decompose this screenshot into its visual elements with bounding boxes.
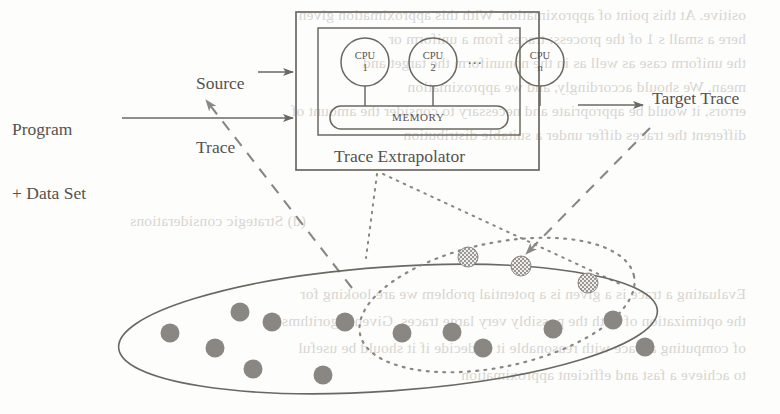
- trace-extrapolator-label: Trace Extrapolator: [334, 146, 465, 167]
- cpu-n-label: CPU n: [520, 50, 560, 74]
- cpu-1-index: 1: [345, 62, 385, 74]
- trace-extrapolator-diagram: [0, 0, 780, 414]
- target-trace-label: Target Trace: [652, 88, 739, 109]
- source-point: [206, 339, 225, 358]
- cpu-1-label: CPU 1: [345, 50, 385, 74]
- source-trace-population: [114, 248, 661, 409]
- target-point: [458, 247, 478, 267]
- memory-label: MEMORY: [392, 111, 445, 123]
- source-point: [636, 338, 655, 357]
- cpu-n-name: CPU: [520, 50, 560, 62]
- target-point: [511, 256, 531, 276]
- cpu-ellipsis-label: ...: [468, 52, 483, 68]
- source-point: [443, 323, 462, 342]
- source-point: [336, 313, 355, 332]
- program-data-set-label: Program + Data Set: [12, 76, 86, 247]
- source-point: [544, 320, 563, 339]
- source-point: [393, 324, 412, 343]
- target-population-ellipse: [347, 215, 647, 395]
- extrapolator-to-target-set-right-dotted-line: [383, 174, 620, 284]
- source-point: [161, 324, 180, 343]
- cpu-2-index: 2: [413, 62, 453, 74]
- source-trace-label: Source Trace: [196, 30, 245, 201]
- extrapolator-to-target-set-left-dotted-line: [366, 174, 377, 258]
- source-population-ellipse: [114, 248, 661, 409]
- source-point: [314, 366, 333, 385]
- cpu-n-index: n: [520, 62, 560, 74]
- program-label-line2: + Data Set: [12, 183, 86, 204]
- source-population-points: [161, 303, 655, 385]
- target-sample-dashed-arrow: [526, 128, 650, 254]
- source-point: [474, 339, 493, 358]
- cpu-1-name: CPU: [345, 50, 385, 62]
- target-population-points: [458, 247, 598, 293]
- program-label-line1: Program: [12, 119, 86, 140]
- source-point: [263, 313, 282, 332]
- cpu-2-label: CPU 2: [413, 50, 453, 74]
- target-point: [578, 273, 598, 293]
- source-point: [244, 360, 263, 379]
- source-trace-label-line1: Source: [196, 73, 245, 94]
- source-trace-label-line2: Trace: [196, 137, 245, 158]
- figure-canvas: ositive. At this point of approximation.…: [0, 0, 780, 414]
- cpu-2-name: CPU: [413, 50, 453, 62]
- source-point: [231, 303, 250, 322]
- target-trace-population: [347, 215, 647, 395]
